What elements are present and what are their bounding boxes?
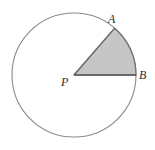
point-label-b: B — [139, 69, 146, 81]
geometry-figure: A B P — [0, 0, 155, 150]
point-label-p: P — [61, 76, 68, 88]
circle-sector-svg — [0, 0, 155, 150]
point-label-a: A — [108, 13, 115, 25]
